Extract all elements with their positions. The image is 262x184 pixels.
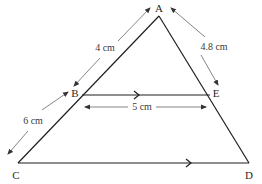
dimension-BC-arrow-lower bbox=[8, 131, 28, 154]
vertex-label-A: A bbox=[155, 3, 163, 14]
vertex-label-B: B bbox=[71, 88, 78, 99]
measurement-BE: 5 cm bbox=[131, 102, 153, 112]
triangle-diagram bbox=[0, 0, 262, 184]
measurement-BC: 6 cm bbox=[22, 116, 44, 126]
vertex-label-C: C bbox=[12, 170, 19, 181]
dimension-BC-arrow-upper bbox=[42, 92, 68, 110]
vertex-label-E: E bbox=[213, 88, 220, 99]
measurement-AB: 4 cm bbox=[94, 43, 116, 53]
dimension-AB-arrow-upper bbox=[118, 8, 150, 41]
side-AC bbox=[18, 16, 159, 163]
side-AD bbox=[159, 16, 249, 163]
dimension-AE-arrow-lower bbox=[201, 55, 218, 85]
vertex-label-D: D bbox=[245, 170, 253, 181]
measurement-AE: 4.8 cm bbox=[199, 42, 228, 52]
dimension-AE-arrow-upper bbox=[171, 8, 205, 37]
